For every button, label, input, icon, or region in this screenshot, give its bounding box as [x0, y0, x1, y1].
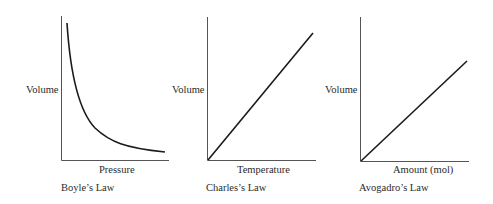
avogadro-x-label: Amount (mol) [393, 164, 453, 175]
charles-chart [208, 17, 317, 161]
boyle-x-label: Pressure [99, 164, 135, 175]
charles-caption: Charles’s Law [206, 182, 266, 193]
boyle-curve [67, 23, 165, 152]
avogadro-caption: Avogadro’s Law [359, 182, 429, 193]
charles-line [208, 33, 313, 160]
charles-y-label: Volume [172, 84, 204, 95]
boyle-chart [62, 16, 170, 161]
boyle-y-label: Volume [26, 84, 58, 95]
boyle-caption: Boyle’s Law [61, 182, 114, 193]
avogadro-line [361, 61, 467, 161]
avogadro-y-label: Volume [325, 84, 357, 95]
charles-x-label: Temperature [237, 164, 290, 175]
avogadro-chart [361, 17, 470, 162]
